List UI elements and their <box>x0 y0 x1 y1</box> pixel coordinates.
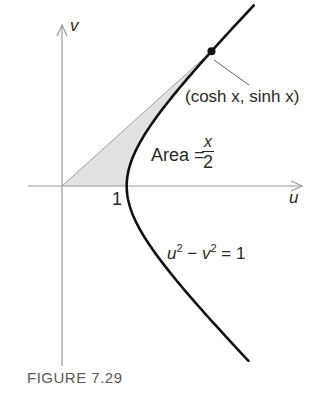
hyperbola-equation: u2 − v2 = 1 <box>167 245 245 262</box>
point-label-text: (cosh x, sinh x) <box>185 87 299 106</box>
tick-label-one: 1 <box>112 190 122 208</box>
point-leader-line <box>214 60 249 85</box>
hyperbola-figure <box>0 0 325 401</box>
v-axis-label: v <box>70 17 79 34</box>
area-fraction-numerator: x <box>202 134 214 150</box>
eq-rest: = 1 <box>217 244 246 263</box>
marked-point <box>207 47 215 55</box>
area-fraction-denominator: 2 <box>202 154 214 171</box>
area-fraction: x 2 <box>202 134 214 171</box>
eq-minus: − <box>183 244 202 263</box>
point-label: (cosh x, sinh x) <box>185 88 299 105</box>
area-label-prefix: Area = <box>151 146 205 164</box>
u-axis-label: u <box>289 189 298 206</box>
sector-ray <box>62 51 211 186</box>
figure-caption: FIGURE 7.29 <box>27 369 123 386</box>
hyperbola-curve <box>127 5 254 360</box>
